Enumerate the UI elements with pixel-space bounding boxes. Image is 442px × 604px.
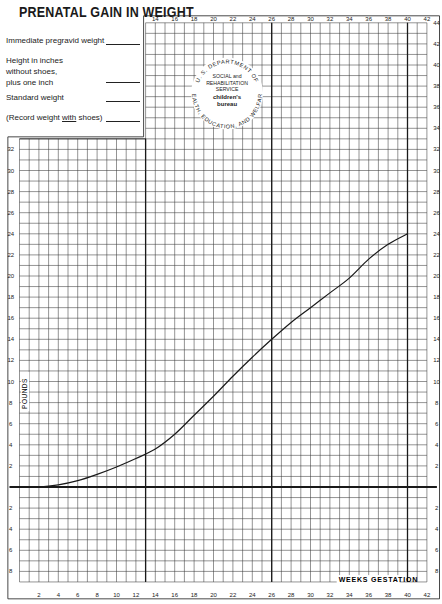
y-tick-left: 2 [9, 463, 13, 469]
y-tick-right: 4 [435, 442, 439, 448]
y-tick-right: 2 [435, 463, 439, 469]
y-tick-left: 28 [7, 189, 14, 195]
y-tick-left: 8 [9, 400, 13, 406]
x-tick-bottom: 20 [210, 592, 217, 598]
x-tick-bottom: 38 [385, 592, 392, 598]
y-tick-right: 28 [433, 189, 440, 195]
y-tick-right: 24 [433, 231, 440, 237]
y-tick-right: 44 [433, 20, 440, 26]
y-tick-left: 32 [7, 146, 14, 152]
x-tick-bottom: 6 [76, 592, 80, 598]
x-tick-bottom: 34 [346, 592, 353, 598]
y-tick-left: 16 [7, 315, 14, 321]
x-tick-bottom: 18 [191, 592, 198, 598]
x-tick-top: 38 [385, 16, 392, 22]
y-tick-right-below: 2 [435, 505, 439, 511]
y-tick-right-below: 4 [435, 526, 439, 532]
y-tick-right: 34 [433, 125, 440, 131]
y-tick-left: 18 [7, 294, 14, 300]
y-tick-left: 12 [7, 357, 14, 363]
x-tick-bottom: 16 [171, 592, 178, 598]
y-tick-right: 6 [435, 421, 439, 427]
y-tick-right: 12 [433, 357, 440, 363]
y-tick-left: 14 [7, 336, 14, 342]
y-tick-left: 22 [7, 252, 14, 258]
y-tick-left-below: 2 [9, 505, 13, 511]
y-tick-left: 30 [7, 168, 14, 174]
y-axis-title: POUNDS [21, 378, 28, 409]
y-tick-right: 36 [433, 104, 440, 110]
x-tick-top: 34 [346, 16, 353, 22]
seal-line-3: SERVICE [216, 86, 239, 92]
x-tick-bottom: 14 [152, 592, 159, 598]
x-tick-bottom: 26 [268, 592, 275, 598]
y-tick-right: 8 [435, 400, 439, 406]
x-tick-bottom: 12 [133, 592, 140, 598]
x-tick-top: 32 [327, 16, 334, 22]
seal-line-2: REHABILITATION [206, 80, 248, 86]
y-tick-right: 16 [433, 315, 440, 321]
x-tick-bottom: 42 [424, 592, 431, 598]
y-tick-right: 32 [433, 146, 440, 152]
weight-gain-chart: U. S. DEPARTMENT OFHEALTH, EDUCATION, AN… [0, 0, 442, 604]
x-tick-bottom: 40 [404, 592, 411, 598]
y-tick-left-below: 8 [9, 568, 13, 574]
y-tick-right: 26 [433, 210, 440, 216]
x-tick-bottom: 24 [249, 592, 256, 598]
x-tick-bottom: 32 [327, 592, 334, 598]
x-tick-top: 40 [404, 16, 411, 22]
x-tick-bottom: 30 [307, 592, 314, 598]
y-tick-right: 10 [433, 379, 440, 385]
x-tick-bottom: 28 [288, 592, 295, 598]
y-tick-left: 24 [7, 231, 14, 237]
y-tick-right-below: 6 [435, 547, 439, 553]
y-tick-right: 30 [433, 168, 440, 174]
x-tick-top: 16 [171, 16, 178, 22]
x-tick-top: 30 [307, 16, 314, 22]
y-tick-right: 18 [433, 294, 440, 300]
x-tick-top: 18 [191, 16, 198, 22]
x-tick-top: 42 [424, 16, 431, 22]
y-tick-right: 38 [433, 83, 440, 89]
x-axis-title: WEEKS GESTATION [339, 576, 418, 583]
x-tick-top: 20 [210, 16, 217, 22]
y-tick-right: 42 [433, 41, 440, 47]
y-tick-left: 20 [7, 273, 14, 279]
x-tick-bottom: 10 [113, 592, 120, 598]
y-tick-right: 14 [433, 336, 440, 342]
y-tick-left: 4 [9, 442, 13, 448]
y-tick-left-below: 6 [9, 547, 13, 553]
x-tick-bottom: 36 [365, 592, 372, 598]
x-tick-top: 24 [249, 16, 256, 22]
childrens-bureau-seal: U. S. DEPARTMENT OFHEALTH, EDUCATION, AN… [0, 0, 263, 130]
seal-line-5: bureau [217, 101, 237, 107]
x-tick-top: 22 [230, 16, 237, 22]
y-tick-right: 40 [433, 62, 440, 68]
x-tick-bottom: 2 [37, 592, 41, 598]
x-tick-bottom: 22 [230, 592, 237, 598]
y-tick-right: 22 [433, 252, 440, 258]
x-tick-bottom: 8 [95, 592, 99, 598]
x-tick-top: 14 [152, 16, 159, 22]
x-tick-top: 36 [365, 16, 372, 22]
y-tick-right-below: 8 [435, 568, 439, 574]
y-tick-left: 10 [7, 379, 14, 385]
x-tick-bottom: 4 [57, 592, 61, 598]
y-tick-left: 6 [9, 421, 13, 427]
y-tick-left: 26 [7, 210, 14, 216]
y-tick-right: 20 [433, 273, 440, 279]
seal-line-4: children's [213, 94, 242, 100]
y-tick-left-below: 4 [9, 526, 13, 532]
x-tick-top: 28 [288, 16, 295, 22]
x-tick-top: 26 [268, 16, 275, 22]
seal-line-1: SOCIAL and [213, 73, 242, 79]
